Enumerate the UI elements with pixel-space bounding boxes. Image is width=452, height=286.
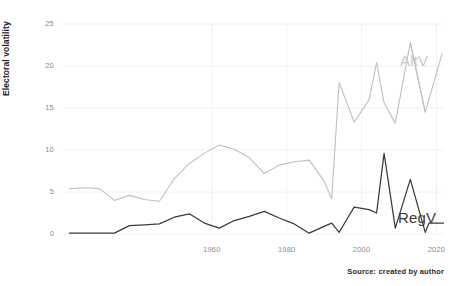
series-label-altv: AltV xyxy=(400,53,428,68)
gridlines xyxy=(62,24,444,234)
chart-caption: Source: created by author xyxy=(347,268,444,276)
y-tick-label: 0 xyxy=(30,230,54,238)
x-tick-label: 2020 xyxy=(417,246,452,254)
y-axis-title: Electoral volatility xyxy=(2,82,11,96)
plot-area xyxy=(0,0,452,286)
y-tick-label: 25 xyxy=(30,20,54,28)
series-line-regv xyxy=(69,153,425,233)
y-tick-label: 5 xyxy=(30,188,54,196)
y-tick-label: 20 xyxy=(30,62,54,70)
x-tick-label: 1960 xyxy=(192,246,232,254)
series-lines xyxy=(69,42,444,233)
series-label-regv: RegV xyxy=(398,210,436,225)
chart-canvas xyxy=(0,0,452,286)
x-tick-label: 1980 xyxy=(267,246,307,254)
chart-container: 0510152025 1960198020002020 Electoral vo… xyxy=(0,0,452,286)
y-tick-label: 15 xyxy=(30,104,54,112)
x-tick-label: 2000 xyxy=(342,246,382,254)
y-tick-label: 10 xyxy=(30,146,54,154)
